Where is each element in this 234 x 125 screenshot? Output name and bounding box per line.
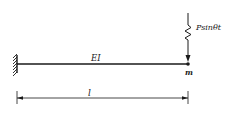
dimension-arrow-right-icon [182,96,188,99]
harmonic-force-spring-icon [185,13,191,56]
dimension-arrow-left-icon [17,96,23,99]
length-dimension [17,91,188,104]
load-label: Psinθt [195,23,222,32]
force-arrow-head-icon [186,55,191,62]
beam-diagram: EI Psinθt m l [0,0,234,125]
beam-stiffness-label: EI [90,53,101,63]
fixed-support-hatch-icon [13,54,17,76]
length-label: l [88,88,91,98]
mass-label: m [185,68,193,77]
point-mass [186,62,190,66]
